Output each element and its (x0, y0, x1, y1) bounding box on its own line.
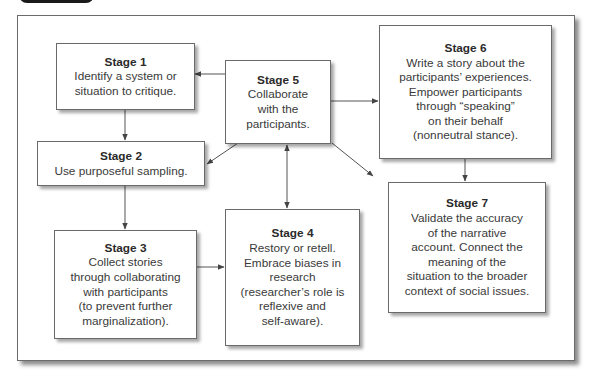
stage-6-text: (nonneutral stance). (413, 128, 518, 143)
stage-2-text: Use purposeful sampling. (54, 164, 187, 179)
stage-3-text: (to prevent further (79, 299, 173, 314)
stage-7-text: account. Connect the (411, 240, 523, 255)
stage-6-text: on their behalf (428, 114, 503, 129)
stage-1-box: Stage 1 Identify a system or situation t… (56, 43, 195, 110)
stage-5-text: Collaborate (248, 87, 308, 102)
stage-6-title: Stage 6 (445, 41, 487, 56)
stage-5-text: participants. (246, 117, 310, 132)
stage-3-text: Collect stories (88, 255, 162, 270)
stage-2-box: Stage 2 Use purposeful sampling. (37, 141, 205, 186)
stage-7-text: situation to the broader (407, 269, 528, 284)
stage-4-title: Stage 4 (272, 226, 314, 241)
stage-7-text: of the narrative (428, 226, 507, 241)
stage-3-title: Stage 3 (105, 241, 147, 256)
stage-3-box: Stage 3 Collect stories through collabor… (54, 230, 197, 339)
stage-4-text: Embrace biases in (244, 256, 341, 271)
stage-7-box: Stage 7 Validate the accuracy of the nar… (388, 182, 546, 313)
stage-7-title: Stage 7 (446, 196, 488, 211)
stage-3-text: through collaborating (70, 270, 180, 285)
stage-1-text: Identify a system or (74, 69, 176, 84)
stage-3-text: with participants (83, 285, 168, 300)
header-tab (19, 0, 94, 3)
stage-5-box: Stage 5 Collaborate with the participant… (225, 60, 331, 144)
stage-6-box: Stage 6 Write a story about the particip… (379, 25, 552, 159)
stage-4-text: self-aware). (262, 314, 324, 329)
stage-5-title: Stage 5 (257, 73, 299, 88)
stage-4-text: Restory or retell. (249, 241, 336, 256)
stage-3-text: marginalization). (82, 314, 169, 329)
stage-2-title: Stage 2 (100, 149, 142, 164)
stage-7-text: context of social issues. (405, 284, 530, 299)
stage-1-title: Stage 1 (105, 55, 147, 70)
stage-7-text: Validate the accuracy (411, 211, 523, 226)
stage-6-text: participants’ experiences. (399, 70, 532, 85)
stage-6-text: through “speaking” (416, 99, 514, 114)
stage-4-text: research (270, 270, 316, 285)
stage-6-text: Write a story about the (406, 56, 524, 71)
stage-7-text: meaning of the (428, 255, 506, 270)
stage-1-text: situation to critique. (75, 84, 177, 99)
stage-5-text: with the (258, 102, 299, 117)
stage-4-text: reflexive and (259, 299, 326, 314)
stage-4-text: (researcher’s role is (241, 285, 345, 300)
stage-6-text: Empower participants (409, 85, 522, 100)
stage-4-box: Stage 4 Restory or retell. Embrace biase… (225, 209, 360, 346)
